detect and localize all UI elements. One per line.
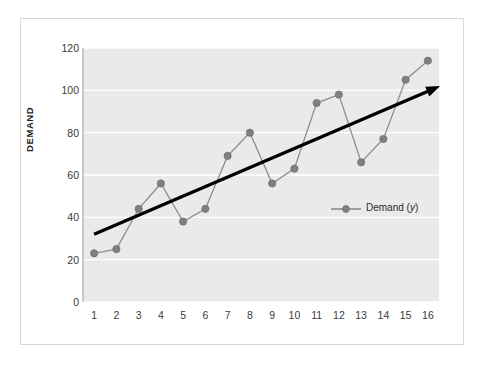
x-tick-label: 5 xyxy=(171,309,195,321)
x-tick-label: 16 xyxy=(416,309,440,321)
legend-swatch-demand xyxy=(331,201,361,213)
x-tick-label: 1 xyxy=(82,309,106,321)
x-tick-label: 12 xyxy=(327,309,351,321)
x-tick-label: 9 xyxy=(260,309,284,321)
legend-label-text: Demand ( xyxy=(366,202,410,213)
y-axis-title: DEMAND xyxy=(24,107,35,152)
chart-legend: Demand (y) xyxy=(331,198,418,216)
x-tick-label: 4 xyxy=(149,309,173,321)
y-tick-label: 40 xyxy=(53,212,79,222)
legend-label-demand: Demand (y) xyxy=(366,202,418,213)
x-tick-label: 11 xyxy=(305,309,329,321)
x-tick-label: 3 xyxy=(127,309,151,321)
x-tick-label: 15 xyxy=(394,309,418,321)
x-tick-label: 10 xyxy=(282,309,306,321)
x-axis-tick-labels: 12345678910111213141516 xyxy=(0,309,486,325)
y-tick-label: 0 xyxy=(53,297,79,307)
x-tick-label: 14 xyxy=(371,309,395,321)
x-tick-label: 7 xyxy=(216,309,240,321)
x-tick-label: 6 xyxy=(193,309,217,321)
x-tick-label: 8 xyxy=(238,309,262,321)
y-tick-label: 100 xyxy=(53,85,79,95)
y-tick-label: 20 xyxy=(53,255,79,265)
y-tick-label: 60 xyxy=(53,170,79,180)
y-tick-label: 80 xyxy=(53,128,79,138)
chart-figure: 020406080100120 12345678910111213141516 … xyxy=(0,0,486,370)
x-tick-label: 2 xyxy=(104,309,128,321)
x-tick-label: 13 xyxy=(349,309,373,321)
legend-label-tail: ) xyxy=(415,202,418,213)
plot-area xyxy=(83,48,439,302)
y-tick-label: 120 xyxy=(53,43,79,53)
